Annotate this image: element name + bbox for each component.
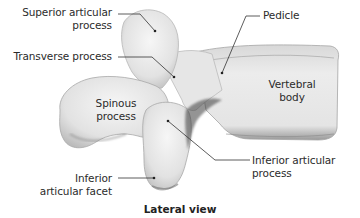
label-line-2: process (22, 19, 112, 32)
label-transverse-process: Transverse process (13, 50, 112, 63)
label-inferior-articular-facet: Inferior articular facet (40, 172, 112, 198)
label-vertebral-body: Vertebral body (252, 78, 332, 104)
label-line-1: Inferior (40, 172, 112, 185)
label-line-2: process (86, 110, 146, 123)
label-line-2: articular facet (40, 185, 112, 198)
label-superior-articular-process: Superior articular process (22, 6, 112, 32)
label-line-1: Spinous (86, 97, 146, 110)
label-line-1: Vertebral (252, 78, 332, 91)
figure-caption: Lateral view (0, 203, 360, 215)
label-pedicle: Pedicle (263, 9, 299, 22)
label-line-2: process (252, 167, 335, 180)
label-line-1: Pedicle (263, 9, 299, 22)
vertebra-diagram: Superior articular process Transverse pr… (0, 0, 360, 218)
label-line-1: Superior articular (22, 6, 112, 19)
label-spinous-process: Spinous process (86, 97, 146, 123)
label-inferior-articular-process: Inferior articular process (252, 154, 335, 180)
label-line-1: Transverse process (13, 50, 112, 63)
label-line-2: body (252, 91, 332, 104)
label-line-1: Inferior articular (252, 154, 335, 167)
